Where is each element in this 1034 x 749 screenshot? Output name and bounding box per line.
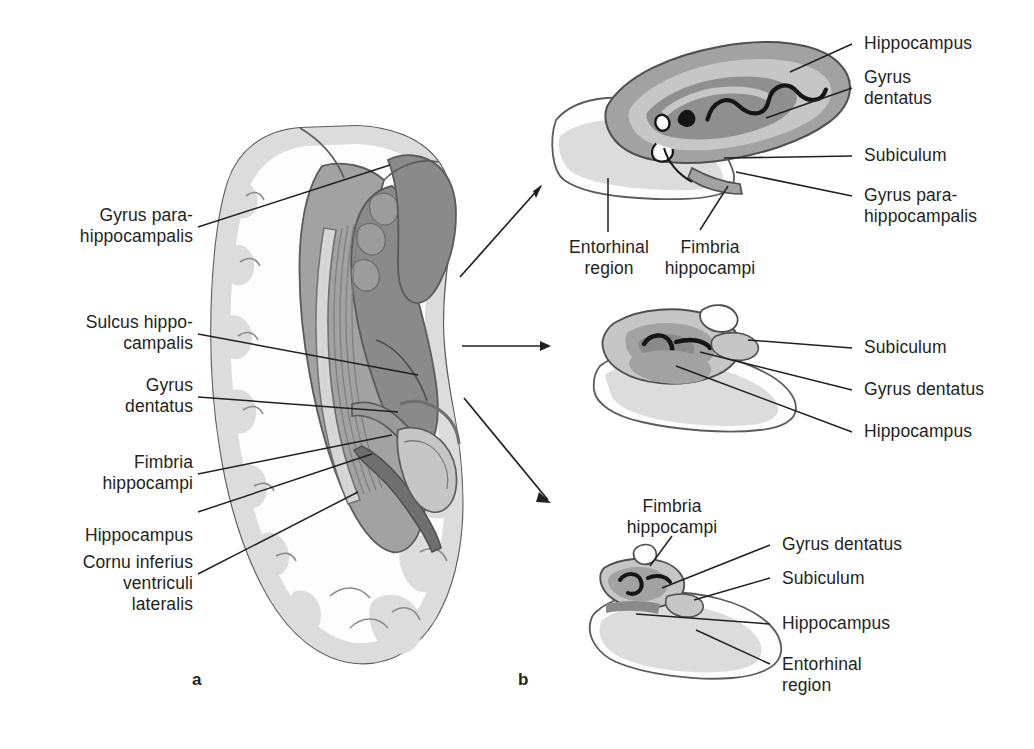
arrows-a-to-b — [460, 185, 551, 503]
label-fimbria-hippocampi-inset-bottom: Fimbria hippocampi — [608, 496, 736, 538]
label-subiculum-inset-bottom: Subiculum — [782, 568, 865, 589]
panel-a-hemisphere — [211, 126, 462, 663]
label-cornu-inferius-ventriculi-lateralis: Cornu inferius ventriculi lateralis — [10, 552, 193, 615]
panel-letter-a: a — [192, 670, 201, 690]
label-sulcus-hippocampalis: Sulcus hippo- campalis — [20, 312, 193, 354]
label-fimbria-hippocampi-a: Fimbria hippocampi — [20, 452, 193, 494]
label-hippocampus-inset-middle: Hippocampus — [864, 421, 972, 442]
figure-canvas: Gyrus para- hippocampalis Sulcus hippo- … — [0, 0, 1034, 749]
label-hippocampus-a: Hippocampus — [20, 525, 193, 546]
label-gyrus-parahippocampalis-a: Gyrus para- hippocampalis — [20, 205, 193, 247]
label-gyrus-parahippocampalis-inset-top: Gyrus para- hippocampalis — [864, 185, 977, 227]
label-subiculum-inset-top: Subiculum — [864, 145, 947, 166]
inset-bottom-artwork — [590, 545, 781, 679]
label-gyrus-dentatus-a: Gyrus dentatus — [20, 375, 193, 417]
label-gyrus-dentatus-inset-middle: Gyrus dentatus — [864, 379, 984, 400]
label-fimbria-hippocampi-inset-top: Fimbria hippocampi — [646, 237, 774, 279]
label-gyrus-dentatus-inset-top: Gyrus dentatus — [864, 67, 932, 109]
panel-letter-b: b — [518, 670, 528, 690]
label-entorhinal-region-inset-bottom: Entorhinal region — [782, 654, 862, 696]
label-subiculum-inset-middle: Subiculum — [864, 337, 947, 358]
label-hippocampus-inset-bottom: Hippocampus — [782, 613, 890, 634]
label-gyrus-dentatus-inset-bottom: Gyrus dentatus — [782, 534, 902, 555]
inset-top-artwork — [552, 11, 862, 199]
label-hippocampus-inset-top: Hippocampus — [864, 33, 972, 54]
